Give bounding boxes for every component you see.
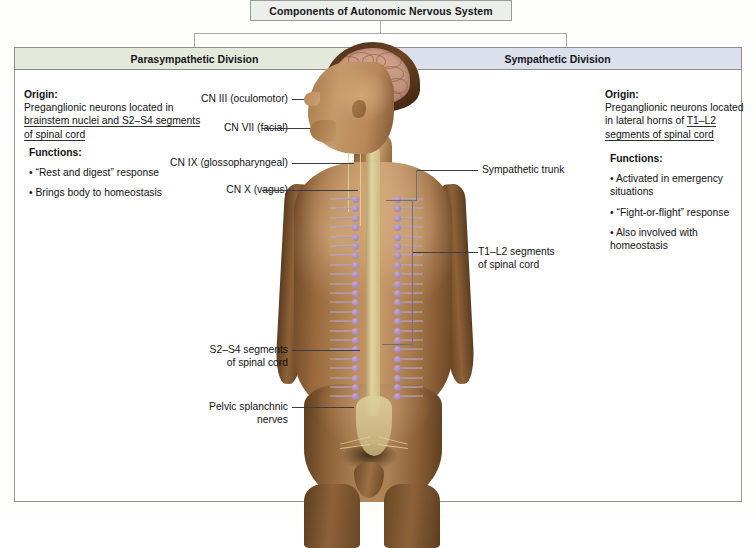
sympathetic-ganglion	[394, 234, 401, 241]
sympathetic-ganglion	[352, 281, 359, 288]
leader-pelvic-splanchnic	[292, 407, 354, 408]
nose	[304, 92, 320, 106]
vertebral-transverse-process	[330, 386, 352, 388]
sympathetic-ganglion	[352, 318, 359, 325]
sympathetic-ganglion	[352, 243, 359, 250]
sympathetic-ganglion	[352, 393, 359, 400]
spinal-cord	[366, 148, 380, 416]
callout-cn-iii-label: CN III (oculomotor)	[201, 93, 288, 104]
sympathetic-ganglion	[394, 205, 401, 212]
sympathetic-ganglion	[352, 252, 359, 259]
vertebral-transverse-process	[330, 217, 352, 219]
leader-t1-l2	[412, 252, 478, 253]
vertebral-transverse-process	[330, 301, 352, 303]
sympathetic-ganglion	[394, 299, 401, 306]
chin	[310, 120, 336, 142]
sympathetic-ganglion	[394, 252, 401, 259]
leader-t1-l2-bracket-h	[382, 344, 413, 345]
sympathetic-ganglion	[394, 365, 401, 372]
sympathetic-ganglion	[352, 262, 359, 269]
sympathetic-functions-block: Functions: • Activated in emergency situ…	[610, 152, 750, 252]
callout-cn-x: CN X (vagus)	[108, 184, 288, 197]
sympathetic-ganglion	[352, 356, 359, 363]
sympathetic-ganglion	[394, 243, 401, 250]
sympathetic-ganglion	[352, 271, 359, 278]
callout-t1-l2: T1–L2 segments of spinal cord	[478, 246, 555, 272]
vertebral-transverse-process	[330, 311, 352, 313]
vertebral-transverse-process	[330, 339, 352, 341]
sympathetic-ganglion	[352, 337, 359, 344]
vertebral-transverse-process	[330, 377, 352, 379]
sympathetic-ganglion	[394, 318, 401, 325]
sympathetic-ganglion	[394, 271, 401, 278]
sympathetic-ganglion	[394, 384, 401, 391]
sympathetic-ganglion	[352, 234, 359, 241]
sympathetic-ganglion	[352, 224, 359, 231]
vertebral-transverse-process	[401, 358, 423, 360]
callout-sympathetic-trunk-label: Sympathetic trunk	[482, 164, 564, 175]
sympathetic-ganglion	[394, 346, 401, 353]
callout-s2-s4: S2–S4 segments of spinal cord	[98, 344, 288, 370]
sympathetic-origin-text: Preganglionic neurons located in lateral…	[605, 101, 745, 141]
vertebral-transverse-process	[330, 207, 352, 209]
callout-cn-vii: CN VII (facial)	[108, 122, 288, 135]
sympathetic-ganglion	[352, 384, 359, 391]
human-body-illustration	[282, 44, 468, 506]
sympathetic-header-label: Sympathetic Division	[504, 53, 610, 65]
sympathetic-ganglion	[394, 290, 401, 297]
vertebral-transverse-process	[330, 226, 352, 228]
callout-t1-l2-line2: of spinal cord	[478, 259, 555, 272]
callout-pelvic-splanchnic: Pelvic splanchnic nerves	[98, 401, 288, 427]
sympathetic-function-2: • “Fight-or-flight” response	[610, 206, 750, 219]
sympathetic-ganglion	[352, 299, 359, 306]
sympathetic-functions-label: Functions:	[610, 152, 750, 165]
vertebral-transverse-process	[330, 367, 352, 369]
vertebral-transverse-process	[330, 292, 352, 294]
ear	[352, 100, 366, 118]
vertebral-transverse-process	[330, 264, 352, 266]
leader-cn-ix	[292, 163, 354, 164]
vertebral-transverse-process	[330, 254, 352, 256]
callout-cn-ix: CN IX (glossopharyngeal)	[78, 157, 288, 170]
vertebral-transverse-process	[401, 348, 423, 350]
sympathetic-origin-label: Origin:	[605, 88, 745, 101]
callout-pelvic-splanchnic-line1: Pelvic splanchnic	[98, 401, 288, 414]
callout-cn-ix-label: CN IX (glossopharyngeal)	[170, 157, 288, 168]
vertebral-transverse-process	[401, 367, 423, 369]
callout-s2-s4-line2: of spinal cord	[98, 357, 288, 370]
sympathetic-origin-block: Origin: Preganglionic neurons located in…	[605, 88, 745, 141]
title-connector-right-drop	[566, 33, 567, 47]
diagram-title-box: Components of Autonomic Nervous System	[250, 0, 512, 21]
sympathetic-trunk-right	[394, 196, 401, 406]
vertebral-transverse-process	[330, 236, 352, 238]
leader-s2-s4	[292, 350, 360, 351]
sympathetic-ganglion	[394, 375, 401, 382]
callout-s2-s4-line1: S2–S4 segments	[98, 344, 288, 357]
vertebral-transverse-process	[330, 395, 352, 397]
sympathetic-ganglion	[394, 281, 401, 288]
sympathetic-function-1: • Activated in emergency situations	[610, 172, 750, 198]
sympathetic-trunk-left	[352, 196, 359, 406]
vertebral-transverse-process	[330, 283, 352, 285]
sympathetic-ganglion	[352, 205, 359, 212]
sympathetic-ganglion	[394, 337, 401, 344]
parasympathetic-header-label: Parasympathetic Division	[131, 53, 259, 65]
vertebral-transverse-process	[401, 386, 423, 388]
vertebral-transverse-process	[330, 273, 352, 275]
vertebral-transverse-process	[401, 395, 423, 397]
title-connector-left-drop	[194, 33, 195, 47]
sympathetic-ganglion	[394, 309, 401, 316]
leader-sympathetic-trunk	[416, 170, 478, 171]
vertebral-transverse-process	[330, 198, 352, 200]
vertebral-transverse-process	[330, 330, 352, 332]
sympathetic-ganglion	[352, 309, 359, 316]
sympathetic-ganglion	[394, 356, 401, 363]
leader-sympathetic-trunk-bracket-v	[416, 170, 417, 200]
sympathetic-ganglion	[352, 365, 359, 372]
callout-cn-iii: CN III (oculomotor)	[108, 93, 288, 106]
sympathetic-ganglion	[394, 224, 401, 231]
vertebral-transverse-process	[330, 320, 352, 322]
sympathetic-function-3: • Also involved with homeostasis	[610, 226, 750, 252]
sympathetic-ganglion	[394, 215, 401, 222]
